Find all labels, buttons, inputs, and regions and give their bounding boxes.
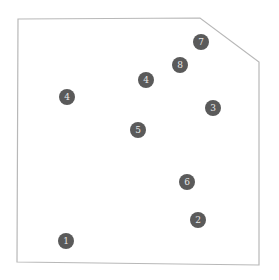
marker[interactable]: 2 <box>190 212 206 228</box>
boundary-polygon <box>0 0 279 280</box>
marker[interactable]: 8 <box>172 57 188 73</box>
marker[interactable]: 6 <box>179 174 195 190</box>
marker[interactable]: 5 <box>130 122 146 138</box>
marker[interactable]: 1 <box>58 233 74 249</box>
marker[interactable]: 4 <box>59 89 75 105</box>
marker[interactable]: 7 <box>193 34 209 50</box>
marker[interactable]: 4 <box>138 72 154 88</box>
marker[interactable]: 3 <box>205 100 221 116</box>
